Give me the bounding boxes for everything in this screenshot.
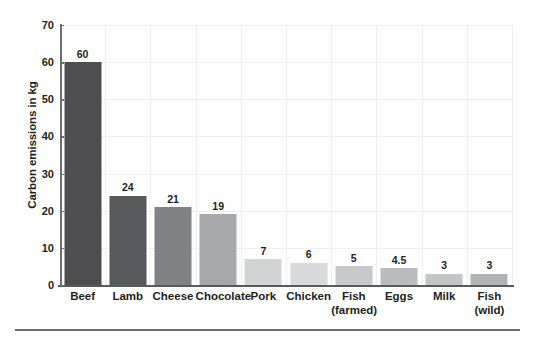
y-axis-tick-mark <box>60 99 64 100</box>
y-axis-tick-labels: 010203040506070 <box>22 25 54 285</box>
y-axis-tick-label: 10 <box>28 242 54 253</box>
x-axis-line <box>58 285 514 287</box>
bar-value-label: 4.5 <box>392 255 407 266</box>
bar-value-label: 7 <box>260 246 266 257</box>
bar-slot: 5 <box>331 25 376 285</box>
x-axis-tick-label: Fish(farmed) <box>331 290 376 317</box>
x-axis-tick-label: Chicken <box>286 290 331 304</box>
bar-value-label: 6 <box>306 249 312 260</box>
y-axis-tick-mark <box>60 211 64 212</box>
bar-value-label: 3 <box>441 260 447 271</box>
bar-slot: 19 <box>196 25 241 285</box>
x-axis-tick-label-line1: Eggs <box>385 290 413 302</box>
y-axis-tick-label: 30 <box>28 168 54 179</box>
bar-slot: 3 <box>422 25 467 285</box>
bar-slot: 60 <box>60 25 105 285</box>
bar-value-label: 5 <box>351 253 357 264</box>
bar-value-label: 21 <box>167 194 179 205</box>
x-axis-tick-label-line1: Fish <box>342 290 366 302</box>
y-axis-tick-mark <box>60 25 64 26</box>
bar <box>245 259 282 285</box>
bar-slot: 4.5 <box>376 25 421 285</box>
x-axis-tick-label-line2: (wild) <box>467 304 512 318</box>
y-axis-tick-label: 40 <box>28 131 54 142</box>
x-axis-tick-label-line1: Pork <box>251 290 277 302</box>
x-axis-tick-label-line1: Beef <box>70 290 95 302</box>
bar-chart-figure: Carbon emissions in kg 010203040506070 6… <box>0 0 537 341</box>
bar-value-label: 24 <box>122 182 134 193</box>
x-axis-tick-label: Pork <box>241 290 286 304</box>
x-axis-tick-label: Chocolate <box>196 290 241 304</box>
x-axis-tick-label-line1: Chicken <box>286 290 331 302</box>
bar <box>335 266 372 285</box>
bar-slot: 3 <box>467 25 512 285</box>
bar <box>64 62 101 285</box>
bar <box>200 214 237 285</box>
y-axis-tick-mark <box>60 174 64 175</box>
x-axis-tick-label: Lamb <box>105 290 150 304</box>
bar <box>154 207 191 285</box>
x-axis-tick-label-line1: Fish <box>478 290 502 302</box>
y-axis-tick-label: 60 <box>28 57 54 68</box>
y-axis-tick-mark <box>60 285 64 286</box>
x-axis-tick-label: Milk <box>422 290 467 304</box>
x-axis-tick-label: Eggs <box>376 290 421 304</box>
bar-slot: 24 <box>105 25 150 285</box>
bar-slot: 7 <box>241 25 286 285</box>
y-axis-tick-mark <box>60 62 64 63</box>
x-axis-tick-label: Beef <box>60 290 105 304</box>
x-axis-tick-label-line1: Lamb <box>112 290 143 302</box>
x-axis-tick-label: Cheese <box>150 290 195 304</box>
y-axis-tick-mark <box>60 136 64 137</box>
bar <box>290 263 327 285</box>
y-axis-tick-label: 0 <box>28 280 54 291</box>
y-axis-tick-label: 20 <box>28 205 54 216</box>
bar <box>471 274 508 285</box>
y-axis-tick-mark <box>60 248 64 249</box>
bar-value-label: 60 <box>77 49 89 60</box>
bar <box>109 196 146 285</box>
bar-slot: 6 <box>286 25 331 285</box>
x-axis-tick-labels: BeefLambCheeseChocolatePorkChickenFish(f… <box>60 290 512 330</box>
y-axis-tick-label: 50 <box>28 94 54 105</box>
footer-rule <box>15 329 520 331</box>
bar-value-label: 19 <box>212 201 224 212</box>
x-axis-tick-label-line1: Milk <box>433 290 455 302</box>
x-axis-tick-label-line1: Cheese <box>153 290 194 302</box>
bar <box>426 274 463 285</box>
bars-layer: 602421197654.533 <box>60 25 512 285</box>
bar <box>380 268 417 285</box>
bar-slot: 21 <box>150 25 195 285</box>
y-axis-tick-label: 70 <box>28 20 54 31</box>
gridline-vertical <box>512 25 513 285</box>
x-axis-tick-label: Fish(wild) <box>467 290 512 317</box>
bar-value-label: 3 <box>486 260 492 271</box>
x-axis-tick-label-line2: (farmed) <box>331 304 376 318</box>
